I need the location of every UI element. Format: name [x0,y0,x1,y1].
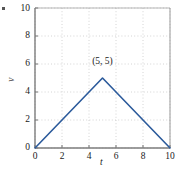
y-tick-label-0: 0 [14,143,30,153]
figure-container: 0 2 4 6 8 10 0 2 4 6 8 10 v t (5, 5) [0,0,187,170]
series-line-v [35,78,170,148]
y-tick-label-6: 6 [14,59,30,69]
y-tick-label-10: 10 [14,4,30,14]
y-tick-label-2: 2 [14,115,30,125]
x-tick-label-6: 6 [114,152,119,162]
y-tick-label-8: 8 [14,31,30,41]
x-tick-label-0: 0 [33,152,38,162]
peak-point-annotation: (5, 5) [92,57,113,67]
x-axis-title: t [100,158,103,168]
x-tick-label-4: 4 [87,152,92,162]
x-tick-label-8: 8 [141,152,146,162]
y-axis-title: v [7,78,17,82]
y-tick-label-4: 4 [14,87,30,97]
x-tick-label-2: 2 [60,152,65,162]
x-tick-label-10: 10 [165,152,175,162]
